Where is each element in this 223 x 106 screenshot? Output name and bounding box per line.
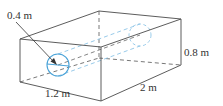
diameter-label: 0.4 m xyxy=(7,9,33,21)
height-label: 0.8 m xyxy=(184,46,210,58)
cylinder-front xyxy=(47,54,69,76)
cylinder-bottom-tangent xyxy=(58,46,140,76)
length-label: 2 m xyxy=(140,81,157,93)
box-diagram: 0.4 m 1.2 m 2 m 0.8 m xyxy=(0,0,223,106)
width-label: 1.2 m xyxy=(45,87,71,99)
edge-top-back xyxy=(99,11,181,19)
hidden-edge-back-bottom xyxy=(99,58,181,65)
cylinder-hidden xyxy=(58,24,151,76)
cylinder-front-diameter xyxy=(47,64,69,66)
edge-top-right xyxy=(101,19,181,47)
hidden-edge-bottom-left xyxy=(20,58,99,82)
